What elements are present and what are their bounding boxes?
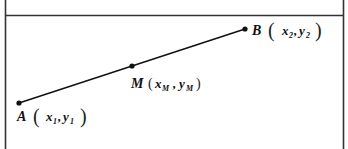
- midpoint-diagram: B ( x 2 , y 2 ) M ( x M , y M ) A ( x 1 …: [0, 0, 348, 149]
- label-a-comma: ,: [57, 109, 61, 124]
- label-b-open-paren: (: [268, 19, 275, 42]
- label-b-name: B: [251, 23, 261, 38]
- label-m-comma: ,: [172, 76, 176, 91]
- label-m-y-sub: M: [185, 84, 194, 93]
- label-m-open-paren: (: [148, 76, 153, 92]
- label-a-close-paren: ): [80, 105, 87, 128]
- label-a-name: A: [16, 109, 26, 124]
- label-b-y: y: [297, 23, 305, 38]
- label-a-x-sub: 1: [53, 117, 57, 126]
- label-a-open-paren: (: [33, 105, 40, 128]
- label-m-name: M: [130, 76, 144, 91]
- label-b-x-sub: 2: [288, 31, 293, 40]
- label-a-y: y: [61, 109, 69, 124]
- label-b-y-sub: 2: [305, 31, 310, 40]
- label-point-a: A ( x 1 , y 1 ): [16, 105, 87, 128]
- label-point-m: M ( x M , y M ): [130, 76, 201, 93]
- point-b-dot: [242, 26, 247, 31]
- label-b-comma: ,: [293, 23, 297, 38]
- label-a-y-sub: 1: [70, 117, 74, 126]
- label-m-close-paren: ): [196, 76, 201, 92]
- point-a-dot: [16, 100, 21, 105]
- label-b-x: x: [281, 23, 289, 38]
- label-m-y: y: [177, 76, 185, 91]
- label-a-x: x: [45, 109, 53, 124]
- point-m-dot: [129, 63, 134, 68]
- label-m-x-sub: M: [161, 84, 170, 93]
- label-m-x: x: [154, 76, 162, 91]
- label-b-close-paren: ): [315, 19, 322, 42]
- label-point-b: B ( x 2 , y 2 ): [251, 19, 322, 42]
